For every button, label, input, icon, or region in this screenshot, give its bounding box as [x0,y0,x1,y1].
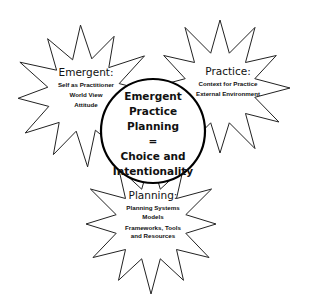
planning-item: Frameworks, Tools [108,224,198,232]
planning-title: Planning: [108,189,198,202]
hub-line: Intentionality [103,164,203,179]
emergent-item: Self as Practitioner [40,81,132,89]
hub-line: Emergent [103,89,203,104]
hub-line: Practice [103,104,203,119]
practice-title: Practice: [186,65,270,78]
hub-line: = [103,134,203,149]
hub-label-group: Emergent Practice Planning = Choice and … [103,89,203,178]
hub-line: Choice and [103,149,203,164]
planning-item: Planning Systems [108,204,198,212]
hub-line: Planning [103,119,203,134]
planning-item: and Resources [108,232,198,240]
planning-label-group: Planning: Planning Systems Models Framew… [108,189,198,240]
planning-item: Models [108,213,198,221]
emergent-title: Emergent: [40,66,132,79]
practice-item: Context for Practice [186,80,270,88]
